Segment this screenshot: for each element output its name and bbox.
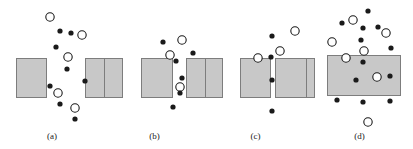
filled-dot-marker: [47, 83, 52, 88]
filled-dot-marker: [269, 108, 274, 113]
filled-dot-marker: [190, 50, 195, 55]
barrier-rect-right-barrier: [86, 59, 105, 98]
figure-container: (a)(b)(c)(d): [0, 0, 413, 149]
filled-dot-marker: [388, 45, 393, 50]
barrier-rect-left-barrier-far: [206, 59, 223, 98]
open-circle-marker: [178, 36, 186, 44]
open-circle-marker: [254, 54, 262, 62]
filled-dot-marker: [269, 33, 274, 38]
panel-label-d: (d): [306, 131, 413, 141]
barrier-rect-right-barrier: [276, 59, 307, 98]
filled-dot-marker: [269, 77, 274, 82]
panel-c: (c): [205, 0, 306, 149]
filled-dot-marker: [387, 98, 392, 103]
panel-label-b: (b): [104, 131, 205, 141]
filled-dot-marker: [358, 37, 363, 42]
open-circle-marker: [291, 27, 299, 35]
filled-dot-marker: [57, 101, 62, 106]
filled-dot-marker: [72, 116, 77, 121]
filled-dot-marker: [179, 75, 184, 80]
open-circle-marker: [166, 51, 174, 59]
filled-dot-marker: [360, 59, 365, 64]
open-circle-marker: [276, 47, 284, 55]
barrier-rect-left-barrier-far: [105, 59, 123, 98]
barrier-rect-left-barrier-far: [307, 59, 315, 98]
barrier-rect-right-barrier: [187, 59, 206, 98]
open-circle-marker: [46, 13, 54, 21]
filled-dot-marker: [360, 99, 365, 104]
filled-dot-marker: [177, 90, 182, 95]
filled-dot-marker: [353, 77, 358, 82]
open-circle-marker: [71, 104, 79, 112]
panel-label-a: (a): [0, 131, 104, 141]
filled-dot-marker: [57, 28, 62, 33]
open-circle-marker: [342, 54, 350, 62]
filled-dot-marker: [268, 54, 273, 59]
filled-dot-marker: [82, 78, 87, 83]
panel-a-graphic: [0, 0, 104, 149]
panel-d-graphic: [306, 0, 413, 149]
filled-dot-marker: [365, 8, 370, 13]
panel-b: (b): [104, 0, 205, 149]
open-circle-marker: [360, 47, 368, 55]
filled-dot-marker: [375, 24, 380, 29]
panel-label-c: (c): [205, 131, 306, 141]
panel-b-graphic: [104, 0, 205, 149]
open-circle-marker: [64, 53, 72, 61]
open-circle-marker: [364, 118, 372, 126]
open-circle-marker: [373, 73, 381, 81]
filled-dot-marker: [170, 104, 175, 109]
filled-dot-marker: [160, 39, 165, 44]
barrier-rect-left-barrier: [17, 59, 47, 98]
filled-dot-marker: [68, 30, 73, 35]
open-circle-marker: [176, 83, 184, 91]
panel-c-graphic: [205, 0, 306, 149]
barrier-rect-left-barrier: [142, 59, 173, 98]
panel-a: (a): [0, 0, 104, 149]
open-circle-marker: [54, 89, 62, 97]
filled-dot-marker: [53, 44, 58, 49]
filled-dot-marker: [360, 25, 365, 30]
panel-d: (d): [306, 0, 413, 149]
open-circle-marker: [382, 29, 390, 37]
filled-dot-marker: [339, 20, 344, 25]
filled-dot-marker: [387, 73, 392, 78]
open-circle-marker: [328, 38, 336, 46]
open-circle-marker: [349, 16, 357, 24]
filled-dot-marker: [334, 97, 339, 102]
open-circle-marker: [78, 31, 86, 39]
filled-dot-marker: [64, 66, 69, 71]
barrier-rect-left-barrier: [241, 59, 271, 98]
filled-dot-marker: [173, 58, 178, 63]
